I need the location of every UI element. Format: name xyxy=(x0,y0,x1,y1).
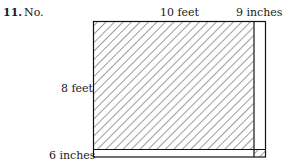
main-rect-hatched xyxy=(94,22,254,150)
area-diagram xyxy=(0,0,291,167)
corner-square-hatched xyxy=(254,150,266,157)
